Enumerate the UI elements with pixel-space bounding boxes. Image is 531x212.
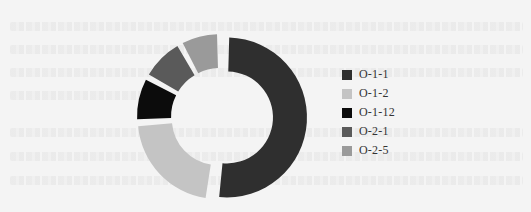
legend-item-o-1-1: O-1-1: [342, 68, 395, 81]
donut-chart: [0, 0, 531, 212]
legend-swatch: [342, 108, 352, 118]
legend-item-o-1-12: O-1-12: [342, 106, 395, 119]
legend-swatch: [342, 70, 352, 80]
legend-swatch: [342, 146, 352, 156]
legend-swatch: [342, 127, 352, 137]
legend-label: O-1-12: [359, 105, 395, 120]
legend-label: O-1-1: [359, 67, 389, 82]
legend-label: O-2-1: [359, 124, 389, 139]
legend-item-o-2-5: O-2-5: [342, 144, 395, 157]
legend-item-o-1-2: O-1-2: [342, 87, 395, 100]
legend-swatch: [342, 89, 352, 99]
donut-segment-o-1-2: [138, 123, 211, 198]
legend-label: O-2-5: [359, 143, 389, 158]
legend-item-o-2-1: O-2-1: [342, 125, 395, 138]
legend-label: O-1-2: [359, 86, 389, 101]
donut-segment-o-1-1: [219, 37, 307, 197]
chart-legend: O-1-1 O-1-2 O-1-12 O-2-1 O-2-5: [342, 68, 395, 157]
